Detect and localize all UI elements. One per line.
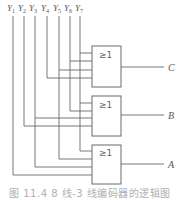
wire-y7 [80, 16, 92, 151]
wire-y5 [59, 16, 92, 159]
wire-y6 [70, 16, 92, 111]
input-labels: Y1 Y2 Y3 Y4 Y5 Y6 Y7 [7, 3, 83, 14]
input-wires [13, 16, 92, 175]
or-gate-c: ≥1 C [92, 46, 175, 87]
encoder-logic-diagram: Y1 Y2 Y3 Y4 Y5 Y6 Y7 ≥1 C ≥1 B [0, 0, 180, 185]
gate-label-c: ≥1 [99, 50, 112, 60]
output-label-a: A [167, 159, 175, 170]
or-gate-a: ≥1 A [92, 145, 175, 184]
gate-label-a: ≥1 [99, 148, 112, 158]
wire-y4 [47, 16, 92, 78]
input-label-y2: Y2 [18, 3, 26, 14]
output-label-c: C [168, 62, 175, 73]
input-label-y5: Y5 [53, 3, 61, 14]
output-label-b: B [168, 110, 174, 121]
or-gate-b: ≥1 B [92, 96, 174, 136]
gate-label-b: ≥1 [99, 100, 112, 110]
input-label-y1: Y1 [7, 3, 15, 14]
input-label-y7: Y7 [75, 3, 83, 14]
wire-y3 [35, 16, 92, 167]
wire-y2 [24, 16, 92, 126]
input-label-y4: Y4 [41, 3, 49, 14]
figure-caption: 图 11.4 8 线-3 线编码器的逻辑图 [0, 185, 180, 200]
input-label-y3: Y3 [29, 3, 37, 14]
input-label-y6: Y6 [64, 3, 72, 14]
